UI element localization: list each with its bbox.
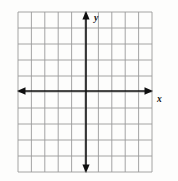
- coordinate-plane-svg: y x: [0, 0, 178, 181]
- x-axis-label: x: [156, 94, 162, 104]
- coordinate-plane-figure: y x: [0, 0, 178, 181]
- y-axis-label: y: [93, 13, 99, 23]
